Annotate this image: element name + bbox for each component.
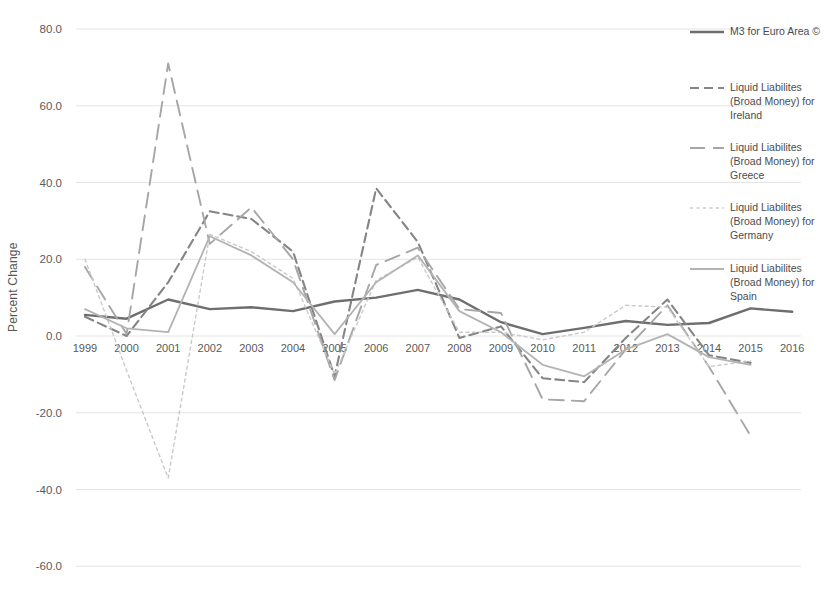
legend-swatch-4	[690, 265, 724, 273]
x-tick-label: 2007	[406, 342, 430, 354]
series-line-4	[85, 236, 751, 376]
series-line-0	[85, 290, 792, 334]
legend-label-4: Liquid Liabilites (Broad Money) for Spai…	[730, 261, 826, 304]
y-tick-label: -40.0	[36, 484, 62, 496]
y-tick-label: -60.0	[36, 560, 62, 572]
x-tick-label: 2009	[489, 342, 513, 354]
x-tick-label: 2006	[364, 342, 388, 354]
x-tick-label: 2002	[198, 342, 222, 354]
y-tick-label: 20.0	[40, 253, 62, 265]
legend-item-0: M3 for Euro Area ©	[690, 24, 826, 38]
x-tick-label: 2011	[572, 342, 596, 354]
legend-label-3: Liquid Liabilites (Broad Money) for Germ…	[730, 200, 826, 243]
x-tick-label: 2013	[655, 342, 679, 354]
legend-swatch-1	[690, 84, 724, 92]
chart-page: Percent Change 80.060.040.020.00.0-20.0-…	[0, 0, 827, 589]
series-line-3	[85, 234, 751, 478]
x-tick-label: 2004	[281, 342, 305, 354]
y-tick-label: 0.0	[46, 330, 62, 342]
legend-item-2: Liquid Liabilites (Broad Money) for Gree…	[690, 140, 826, 183]
legend-swatch-2	[690, 144, 724, 152]
legend-label-0: M3 for Euro Area ©	[730, 24, 826, 38]
y-tick-label: 80.0	[40, 23, 62, 35]
y-tick-label: -20.0	[36, 407, 62, 419]
legend-label-1: Liquid Liabilites (Broad Money) for Irel…	[730, 80, 826, 123]
legend-label-2: Liquid Liabilites (Broad Money) for Gree…	[730, 140, 826, 183]
legend-item-1: Liquid Liabilites (Broad Money) for Irel…	[690, 80, 826, 123]
y-tick-label: 60.0	[40, 100, 62, 112]
legend-item-4: Liquid Liabilites (Broad Money) for Spai…	[690, 261, 826, 304]
legend-item-3: Liquid Liabilites (Broad Money) for Germ…	[690, 200, 826, 243]
legend: M3 for Euro Area ©Liquid Liabilites (Bro…	[690, 0, 826, 589]
legend-swatch-3	[690, 204, 724, 212]
y-tick-label: 40.0	[40, 177, 62, 189]
x-tick-label: 2008	[447, 342, 471, 354]
x-tick-label: 1999	[73, 342, 97, 354]
x-tick-label: 2001	[156, 342, 180, 354]
legend-swatch-0	[690, 28, 724, 36]
x-tick-label: 2003	[239, 342, 263, 354]
x-tick-label: 2010	[530, 342, 554, 354]
